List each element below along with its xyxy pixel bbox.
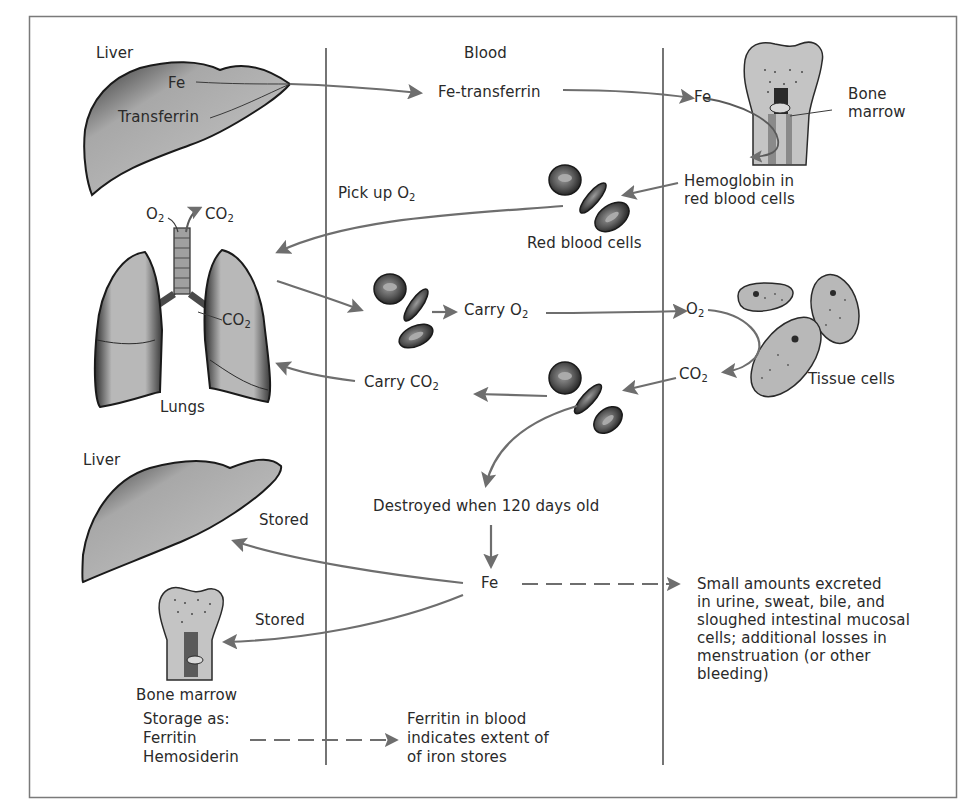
label-pick-up-o2: Pick up O2 — [338, 184, 416, 203]
arrow-carry-co2-to-lungs — [278, 364, 355, 381]
label-excretion-3: sloughed intestinal mucosal — [697, 611, 910, 630]
red-blood-cells-top — [549, 165, 634, 238]
label-liver-bottom: Liver — [83, 451, 120, 470]
label-bone-marrow-top-2: marrow — [848, 103, 906, 122]
label-bone-marrow-top-1: Bone — [848, 85, 887, 104]
label-hemosiderin: Hemosiderin — [143, 748, 239, 767]
label-stored-marrow: Stored — [255, 611, 305, 630]
arrow-fe-to-liver-stored — [234, 541, 463, 583]
label-excretion-6: bleeding) — [697, 665, 769, 684]
label-fe-marrow: Fe — [694, 88, 711, 107]
liver-bottom-illustration — [82, 460, 281, 582]
arrow-liver-to-transferrin — [290, 84, 420, 93]
arrow-hemoglobin-to-rbc — [624, 183, 678, 195]
label-transferrin: Transferrin — [118, 108, 199, 127]
label-fe-center: Fe — [481, 574, 498, 593]
bone-marrow-top-illustration — [744, 42, 822, 165]
red-blood-cells-bottom — [549, 362, 627, 439]
label-excretion-2: in urine, sweat, bile, and — [697, 593, 885, 612]
label-lungs-co2-inner: CO2 — [222, 311, 251, 330]
label-bone-marrow-bottom: Bone marrow — [136, 686, 237, 705]
arrow-transferrin-to-marrow — [563, 90, 692, 98]
label-excretion-5: menstruation (or other — [697, 647, 871, 666]
label-tissue-o2: O2 — [686, 300, 704, 319]
arrow-lungs-to-rbc — [277, 281, 361, 310]
label-ferritin-blood-1: Ferritin in blood — [407, 710, 526, 729]
label-tissue-co2: CO2 — [679, 365, 708, 384]
iron-metabolism-diagram: Liver Blood Fe Transferrin Fe-transferri… — [0, 0, 963, 808]
label-destroyed: Destroyed when 120 days old — [373, 497, 599, 516]
label-hemoglobin-1: Hemoglobin in — [684, 172, 794, 191]
label-carry-o2: Carry O2 — [464, 301, 528, 320]
label-carry-co2: Carry CO2 — [364, 373, 439, 392]
arrow-pickup-to-lungs — [278, 206, 563, 252]
arrow-rbc-to-destroyed — [486, 406, 577, 485]
label-red-blood-cells: Red blood cells — [527, 234, 642, 253]
liver-top-illustration — [84, 62, 290, 195]
label-lungs-o2: O2 — [146, 205, 164, 224]
label-lungs: Lungs — [160, 398, 205, 417]
arrow-carry-o2-to-tissue — [546, 311, 685, 313]
label-fe-liver: Fe — [168, 74, 185, 93]
label-tissue-cells: Tissue cells — [808, 370, 895, 389]
label-hemoglobin-2: red blood cells — [684, 190, 795, 209]
label-stored-liver: Stored — [259, 511, 309, 530]
red-blood-cells-middle — [374, 274, 437, 353]
arrow-rbc-to-carry-co2 — [476, 394, 547, 396]
label-ferritin-blood-3: of iron stores — [407, 748, 507, 767]
label-blood-header: Blood — [464, 44, 507, 63]
arrow-tissue-co2-to-rbc — [625, 378, 676, 390]
label-fe-transferrin: Fe-transferrin — [438, 83, 541, 102]
label-storage-as: Storage as: — [143, 710, 230, 729]
label-ferritin-blood-2: indicates extent of — [407, 729, 549, 748]
label-excretion-4: cells; additional losses in — [697, 629, 887, 648]
bone-marrow-bottom-illustration — [159, 588, 223, 681]
label-ferritin: Ferritin — [143, 729, 197, 748]
label-liver-top: Liver — [96, 44, 133, 63]
label-excretion-1: Small amounts excreted — [697, 575, 882, 594]
label-lungs-co2-top: CO2 — [205, 205, 234, 224]
